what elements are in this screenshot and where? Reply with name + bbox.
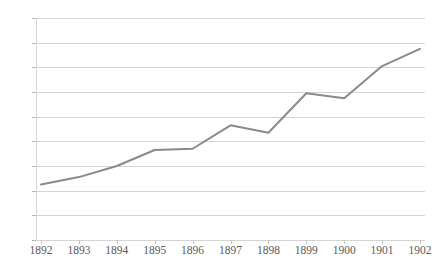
- x-axis-label-1896: 1896: [181, 245, 204, 257]
- x-axis-label-1892: 1892: [30, 245, 53, 257]
- data-series-line-1: [41, 49, 420, 185]
- x-axis-label-1899: 1899: [295, 245, 318, 257]
- x-axis-label-1893: 1893: [67, 245, 90, 257]
- x-axis-label-1894: 1894: [105, 245, 128, 257]
- x-axis-label-1897: 1897: [219, 245, 242, 257]
- series-line-layer: [36, 18, 425, 240]
- line-chart: 020406080100120140160180 189218931894189…: [0, 0, 434, 268]
- x-axis-label-1901: 1901: [371, 245, 394, 257]
- x-axis-label-1898: 1898: [257, 245, 280, 257]
- y-tick-mark: [32, 240, 36, 241]
- x-axis-label-1902: 1902: [409, 245, 432, 257]
- x-axis-label-1900: 1900: [333, 245, 356, 257]
- x-axis-tick-labels: 1892189318941895189618971898189919001901…: [36, 245, 425, 263]
- x-axis-label-1895: 1895: [143, 245, 166, 257]
- plot-area: [36, 18, 425, 240]
